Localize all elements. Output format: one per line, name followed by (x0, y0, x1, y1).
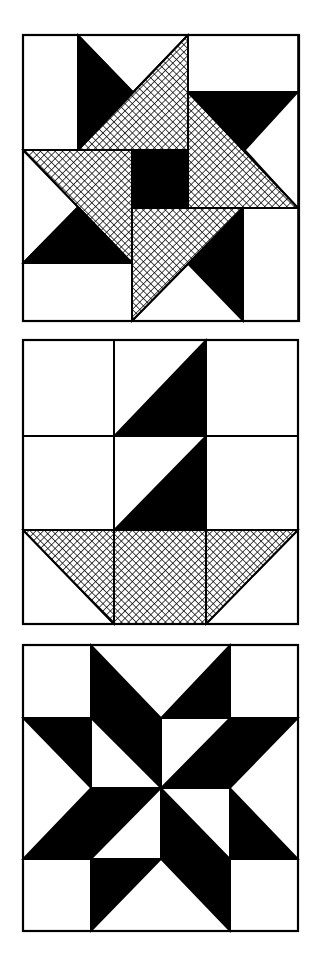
sailboat-basket-block (23, 340, 298, 624)
white-patch (243, 208, 298, 321)
hatch-patch (114, 530, 206, 624)
pinwheel-star-block (23, 35, 299, 321)
black-patch (132, 150, 188, 208)
white-patch (23, 263, 132, 321)
white-patch (23, 35, 78, 150)
eight-point-star-block (23, 645, 298, 931)
white-patch (188, 35, 298, 92)
quilt-blocks-canvas (0, 0, 320, 955)
